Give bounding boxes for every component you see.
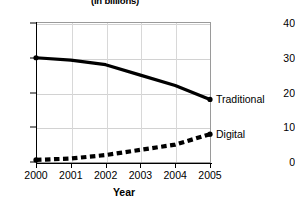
- y-axis-line: [36, 22, 37, 163]
- line-chart: (in billions) 010203040 2000200120022003…: [0, 0, 295, 200]
- chart-title: (in billions): [0, 0, 230, 6]
- y-tick-label: 10: [265, 122, 295, 133]
- y-tick-label: 20: [265, 87, 295, 98]
- x-tick-mark: [106, 163, 107, 168]
- x-tick-label: 2005: [190, 170, 230, 181]
- x-tick-mark: [175, 163, 176, 168]
- gridline-vertical: [107, 23, 108, 162]
- gridline-horizontal: [37, 94, 210, 95]
- plot-area: [36, 22, 211, 163]
- x-axis-line: [36, 163, 212, 164]
- gridline-horizontal: [37, 128, 210, 129]
- x-tick-mark: [36, 163, 37, 168]
- gridline-vertical: [141, 23, 142, 162]
- x-tick-mark: [140, 163, 141, 168]
- y-tick-label: 0: [265, 157, 295, 168]
- x-axis-title: Year: [36, 186, 212, 198]
- gridline-vertical: [176, 23, 177, 162]
- x-tick-mark: [210, 163, 211, 168]
- gridline-horizontal: [37, 24, 210, 25]
- y-tick-label: 30: [265, 53, 295, 64]
- gridline-vertical: [72, 23, 73, 162]
- y-tick-label: 40: [265, 18, 295, 29]
- series-label-digital: Digital: [216, 129, 245, 140]
- x-tick-mark: [71, 163, 72, 168]
- series-label-traditional: Traditional: [216, 94, 265, 105]
- gridline-horizontal: [37, 59, 210, 60]
